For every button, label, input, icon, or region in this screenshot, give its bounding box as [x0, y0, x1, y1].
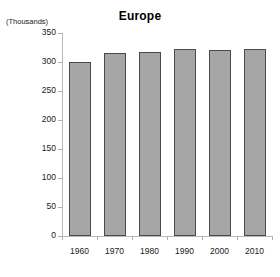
y-axis-tick-mark [58, 149, 63, 150]
x-axis-tick-mark [272, 236, 273, 240]
bar-1970 [104, 53, 126, 236]
y-axis-tick-mark [58, 120, 63, 121]
x-axis-tick-mark [97, 236, 98, 240]
x-axis-tick-label: 1990 [168, 246, 202, 256]
y-axis-tick-label: 150 [16, 144, 56, 153]
bar-chart: (Thousands) Europe 050100150200250300350… [0, 0, 280, 277]
y-axis-tick-mark [58, 62, 63, 63]
x-axis-tick-label: 1960 [63, 246, 97, 256]
y-axis-tick-label: 50 [16, 202, 56, 211]
bar-1990 [174, 49, 196, 236]
plot-area: 0501001502002503003501960197019801990200… [0, 0, 280, 277]
bar-1980 [139, 52, 161, 236]
y-axis-tick-label: 100 [16, 173, 56, 182]
x-axis-tick-mark [167, 236, 168, 240]
bar-2000 [209, 50, 231, 236]
x-axis-tick-mark [202, 236, 203, 240]
y-axis-tick-mark [58, 178, 63, 179]
x-axis-tick-mark [132, 236, 133, 240]
bar-2010 [244, 49, 266, 236]
y-axis-tick-mark [58, 33, 63, 34]
x-axis-tick-label: 1970 [98, 246, 132, 256]
y-axis-tick-label: 0 [16, 231, 56, 240]
y-axis-tick-label: 350 [16, 28, 56, 37]
x-axis-tick-mark [62, 236, 63, 240]
y-axis-tick-label: 250 [16, 86, 56, 95]
y-axis-tick-mark [58, 207, 63, 208]
x-axis-tick-label: 1980 [133, 246, 167, 256]
y-axis-tick-mark [58, 91, 63, 92]
y-axis-tick-label: 200 [16, 115, 56, 124]
x-axis-tick-mark [237, 236, 238, 240]
y-axis-tick-label: 300 [16, 57, 56, 66]
bar-1960 [69, 62, 91, 236]
x-axis-tick-label: 2010 [238, 246, 272, 256]
x-axis-tick-label: 2000 [203, 246, 237, 256]
